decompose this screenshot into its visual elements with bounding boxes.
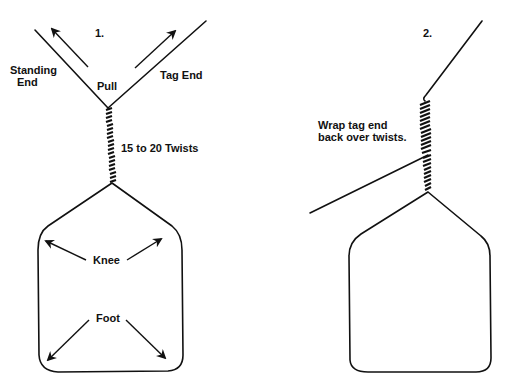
pull-arrow-right-icon <box>135 31 175 68</box>
loop-panel-1 <box>38 183 183 372</box>
foot-arrow-right-icon <box>126 320 165 358</box>
foot-label: Foot <box>96 312 120 324</box>
standing-line-panel-2 <box>424 21 482 101</box>
pull-arrow-left-icon <box>52 29 88 67</box>
tag-end-wrap-line <box>310 155 428 213</box>
standing-end-label-line2: End <box>17 76 38 88</box>
wrapped-twist-section <box>420 101 431 190</box>
bimini-twist-diagram: 1. Standing End Pull Tag End <box>0 0 512 389</box>
standing-end-label-line1: Standing <box>10 64 57 76</box>
wrap-instruction-line1: Wrap tag end <box>318 119 387 131</box>
step-number-2: 2. <box>423 27 432 39</box>
knee-label: Knee <box>93 254 120 266</box>
twists-label: 15 to 20 Twists <box>121 142 198 154</box>
loop-panel-2 <box>349 192 491 372</box>
foot-arrow-left-icon <box>48 320 89 360</box>
panel-2: 2. <box>310 21 491 372</box>
knee-arrow-right-icon <box>127 239 161 260</box>
knee-arrow-left-icon <box>46 241 86 260</box>
twist-section <box>106 108 116 182</box>
tag-end-line <box>108 21 206 108</box>
pull-label: Pull <box>97 80 117 92</box>
tag-end-label: Tag End <box>160 69 203 81</box>
step-number-1: 1. <box>95 27 104 39</box>
panel-1: 1. Standing End Pull Tag End <box>10 21 206 372</box>
wrap-instruction-line2: back over twists. <box>318 131 407 143</box>
